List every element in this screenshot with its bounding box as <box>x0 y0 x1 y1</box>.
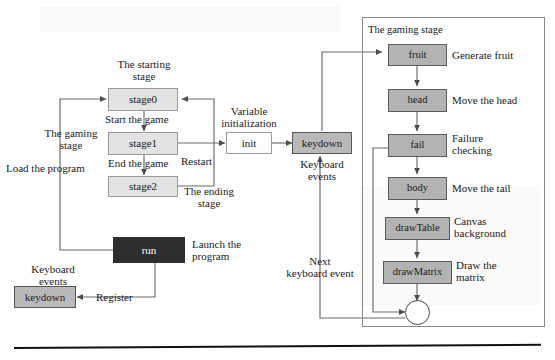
annotation-fruit: Generate fruit <box>452 49 513 61</box>
node-stage1[interactable]: stage1 <box>108 132 178 155</box>
edge-label-start-the-game: Start the game <box>105 113 169 125</box>
node-init[interactable]: init <box>226 132 272 154</box>
annotation-drawmatrix: Draw the matrix <box>456 259 497 284</box>
node-fruit[interactable]: fruit <box>388 44 447 66</box>
annotation-head: Move the head <box>452 94 517 106</box>
label-next-keyboard-event: Next keyboard event <box>268 255 372 280</box>
node-stage2[interactable]: stage2 <box>108 176 178 197</box>
edge-label-load-the-program: Load the program <box>6 162 85 174</box>
label-keyboard-events-mid: Keyboard events <box>283 158 361 183</box>
edge-label-register: Register <box>96 291 133 303</box>
label-starting-stage: The starting stage <box>94 58 194 83</box>
annotation-fail: Failure checking <box>452 132 492 157</box>
label-ending-stage: The ending stage <box>172 185 246 210</box>
node-drawmatrix[interactable]: drawMatrix <box>383 261 452 284</box>
label-keyboard-events-left: Keyboard events <box>14 263 92 288</box>
node-head[interactable]: head <box>388 89 447 112</box>
annotation-drawtable: Canvas background <box>454 215 506 240</box>
node-keydown-left[interactable]: keydown <box>14 286 76 308</box>
edge-label-restart: Restart <box>181 155 212 167</box>
node-keydown-mid[interactable]: keydown <box>292 132 352 154</box>
node-drawtable[interactable]: drawTable <box>385 217 450 240</box>
flowchart-canvas: The starting stage stage0 Start the game… <box>0 0 555 360</box>
label-gaming-stage-left: The gaming stage <box>36 127 106 152</box>
node-loop-junction[interactable] <box>405 300 430 325</box>
label-variable-initialization: Variable initialization <box>203 105 295 130</box>
node-stage0[interactable]: stage0 <box>108 88 178 111</box>
label-launch-the-program: Launch the program <box>192 238 241 263</box>
node-run[interactable]: run <box>113 237 185 263</box>
gaming-stage-panel-title: The gaming stage <box>368 24 443 35</box>
annotation-body: Move the tail <box>452 182 511 194</box>
edge-label-end-the-game: End the game <box>108 157 168 169</box>
node-fail[interactable]: fail <box>388 134 447 157</box>
node-body[interactable]: body <box>388 177 447 200</box>
